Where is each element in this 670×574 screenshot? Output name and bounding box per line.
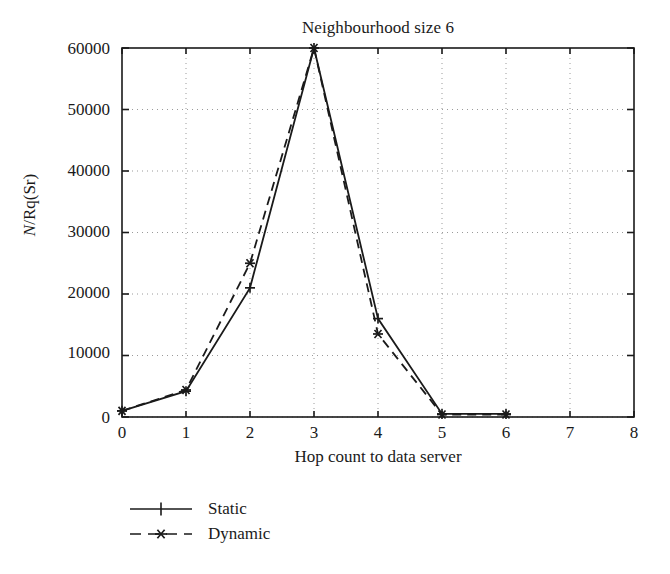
legend-swatch-dashed-asterisk-icon (128, 523, 194, 545)
chart-figure: Neighbourhood size 6 N/Rq(Sr) Hop count … (0, 0, 670, 574)
legend-item-dynamic: Dynamic (128, 521, 270, 546)
series-static (117, 43, 511, 419)
chart-legend: Static Dynamic (128, 496, 270, 546)
legend-label-dynamic: Dynamic (194, 524, 270, 544)
series-dynamic (117, 44, 511, 419)
legend-label-static: Static (194, 499, 247, 519)
plot-area (0, 0, 670, 574)
legend-item-static: Static (128, 496, 270, 521)
legend-swatch-solid-plus-icon (128, 498, 194, 520)
grid-lines (122, 48, 634, 417)
